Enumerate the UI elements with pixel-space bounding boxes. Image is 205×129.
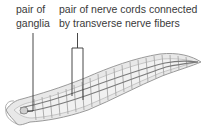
ganglia bbox=[20, 107, 28, 114]
label-nerve-cords-line2: by transverse nerve fibers bbox=[59, 17, 197, 31]
diagram-canvas: pair of ganglia pair of nerve cords conn… bbox=[0, 0, 205, 129]
label-ganglia-line1: pair of bbox=[16, 3, 50, 17]
label-ganglia-line2: ganglia bbox=[16, 17, 50, 31]
label-pair-of-ganglia: pair of ganglia bbox=[16, 3, 50, 30]
label-nerve-cords: pair of nerve cords connected by transve… bbox=[59, 3, 197, 30]
label-nerve-cords-line1: pair of nerve cords connected bbox=[59, 3, 197, 17]
